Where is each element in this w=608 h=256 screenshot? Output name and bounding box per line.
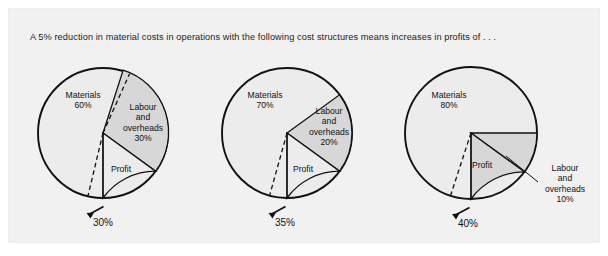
pie-3-materials-label: Materials 80% xyxy=(412,90,486,111)
pie-2-labour-value: 20% xyxy=(320,137,337,147)
pie-1-profit-label: Profit xyxy=(100,164,142,174)
pie-chart-2-svg xyxy=(212,60,362,236)
pie-3-materials-value: 80% xyxy=(440,100,457,110)
pie-2-labour-name-1: Labour xyxy=(316,106,343,116)
pie-2-materials-value: 70% xyxy=(256,100,273,110)
pie-3-profit-label: Profit xyxy=(461,160,503,170)
pie-1-materials-label: Materials 60% xyxy=(46,90,120,111)
pie-3-labour-value: 10% xyxy=(556,194,573,204)
pie-1-materials-name: Materials xyxy=(66,90,101,100)
pie-1-labour-name-2: and xyxy=(136,112,150,122)
pie-1-labour-name-1: Labour xyxy=(130,102,157,112)
pie-chart-1: Materials 60% Labour and overheads 30% P… xyxy=(28,60,178,236)
pie-1-labour-label: Labour and overheads 30% xyxy=(112,102,174,144)
pie-2-labour-name-3: overheads xyxy=(309,127,349,137)
pie-2-materials-name: Materials xyxy=(248,90,283,100)
pie-3-result-percent: 40% xyxy=(438,218,498,229)
pie-chart-3-svg xyxy=(396,60,546,236)
pie-3-labour-name-2: and xyxy=(558,173,572,183)
pie-chart-1-svg xyxy=(28,60,178,236)
pie-2-labour-name-2: and xyxy=(322,116,336,126)
pie-3-labour-name-3: overheads xyxy=(545,184,585,194)
figure-root: A 5% reduction in material costs in oper… xyxy=(0,0,608,256)
pie-1-result-percent: 30% xyxy=(73,217,133,228)
figure-caption: A 5% reduction in material costs in oper… xyxy=(30,31,590,43)
pie-chart-3: Materials 80% Labour and overheads 10% P… xyxy=(396,60,546,236)
pie-1-labour-name-3: overheads xyxy=(123,123,163,133)
pie-3-labour-label: Labour and overheads 10% xyxy=(534,163,596,205)
pie-2-labour-label: Labour and overheads 20% xyxy=(298,106,360,148)
pie-3-labour-name-1: Labour xyxy=(552,163,579,173)
pie-3-materials-name: Materials xyxy=(432,90,467,100)
pie-2-profit-label: Profit xyxy=(282,164,324,174)
pie-2-result-percent: 35% xyxy=(255,217,315,228)
pie-1-materials-value: 60% xyxy=(74,100,91,110)
pie-1-labour-value: 30% xyxy=(134,133,151,143)
pie-2-materials-label: Materials 70% xyxy=(228,90,302,111)
pie-chart-2: Materials 70% Labour and overheads 20% P… xyxy=(212,60,362,236)
